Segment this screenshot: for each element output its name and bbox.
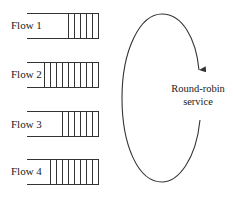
flow-3-label: Flow 3	[11, 118, 42, 130]
flow-queues	[27, 13, 99, 185]
flow-1-label: Flow 1	[11, 19, 42, 31]
flow-2-label: Flow 2	[11, 68, 42, 80]
service-label-line-2: service	[163, 95, 233, 108]
round-robin-service-label: Round-robin service	[163, 82, 233, 108]
round-robin-diagram: Flow 1 Flow 2 Flow 3 Flow 4 Round-robin …	[0, 0, 233, 199]
flow-4-label: Flow 4	[11, 165, 42, 177]
service-label-line-1: Round-robin	[163, 82, 233, 95]
